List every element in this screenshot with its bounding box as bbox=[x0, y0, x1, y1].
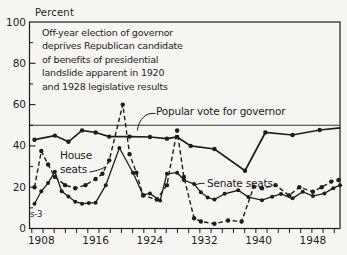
data-point bbox=[290, 133, 294, 137]
data-point bbox=[320, 185, 324, 189]
y-tick-label: 20 bbox=[13, 181, 26, 193]
data-point bbox=[63, 183, 67, 187]
data-point bbox=[80, 202, 84, 206]
senate-seats-leader-line bbox=[195, 183, 205, 185]
data-point bbox=[83, 183, 87, 187]
y-tick-label: 60 bbox=[13, 98, 26, 110]
data-point bbox=[273, 183, 277, 187]
scanned-statistics-figure: 020406080100190819161924193219401948 Per… bbox=[0, 0, 347, 255]
data-point bbox=[206, 196, 210, 200]
house-seats-label-line1: House bbox=[60, 149, 92, 163]
annotation-line: landslide apparent in 1920 bbox=[42, 66, 183, 79]
data-point bbox=[33, 202, 37, 206]
data-point bbox=[148, 191, 152, 195]
source-mark: s-3 bbox=[30, 209, 42, 219]
data-point bbox=[329, 179, 333, 183]
data-point bbox=[175, 171, 179, 175]
data-point bbox=[301, 190, 305, 194]
data-point bbox=[39, 189, 43, 193]
data-point bbox=[66, 140, 70, 144]
data-point bbox=[121, 102, 125, 106]
data-point bbox=[46, 162, 50, 166]
data-point bbox=[297, 185, 301, 189]
data-point bbox=[158, 199, 162, 203]
data-point bbox=[291, 196, 295, 200]
data-point bbox=[212, 222, 216, 226]
data-point bbox=[175, 128, 179, 132]
data-point bbox=[127, 152, 131, 156]
data-point bbox=[199, 219, 203, 223]
y-tick-label: 100 bbox=[6, 16, 26, 28]
annotation-line: of benefits of presidential bbox=[42, 53, 183, 66]
data-point bbox=[243, 168, 247, 172]
data-point bbox=[322, 191, 326, 195]
data-point bbox=[141, 193, 145, 197]
data-point bbox=[107, 134, 111, 138]
y-tick-label: 80 bbox=[13, 57, 26, 69]
data-point bbox=[165, 183, 169, 187]
data-point bbox=[317, 128, 321, 132]
data-point bbox=[212, 147, 216, 151]
senate-seats-series-label: Senate seats bbox=[207, 177, 273, 189]
y-axis-title: Percent bbox=[35, 7, 74, 18]
data-point bbox=[165, 136, 169, 140]
data-point bbox=[32, 185, 36, 189]
data-point bbox=[226, 218, 230, 222]
house-seats-series-label: House seats bbox=[60, 149, 92, 176]
data-point bbox=[80, 128, 84, 132]
x-tick-label: 1932 bbox=[191, 234, 218, 246]
data-point bbox=[331, 186, 335, 190]
data-point bbox=[93, 130, 97, 134]
data-point bbox=[73, 186, 77, 190]
annotation-block: Off-year election of governor deprives R… bbox=[42, 26, 183, 93]
data-point bbox=[46, 181, 50, 185]
data-point bbox=[66, 194, 70, 198]
data-point bbox=[188, 144, 192, 148]
data-point bbox=[337, 178, 341, 182]
y-tick-label: 40 bbox=[13, 139, 26, 151]
data-point bbox=[199, 190, 203, 194]
x-tick-label: 1948 bbox=[300, 234, 327, 246]
data-point bbox=[117, 146, 121, 150]
x-tick-label: 1916 bbox=[82, 234, 109, 246]
x-tick-label: 1924 bbox=[137, 234, 164, 246]
x-tick-label: 1908 bbox=[28, 234, 55, 246]
data-point bbox=[212, 198, 216, 202]
data-point bbox=[93, 177, 97, 181]
data-point bbox=[73, 200, 77, 204]
y-tick-label: 0 bbox=[19, 222, 26, 234]
annotation-line: deprives Republican candidate bbox=[42, 39, 183, 52]
annotation-line: and 1928 legislative results bbox=[42, 80, 183, 93]
data-point bbox=[53, 133, 57, 137]
data-point bbox=[131, 171, 135, 175]
data-point bbox=[165, 172, 169, 176]
data-point bbox=[338, 183, 342, 187]
data-point bbox=[107, 158, 111, 162]
data-point bbox=[192, 216, 196, 220]
popular-vote-series-label: Popular vote for governor bbox=[156, 105, 285, 117]
data-point bbox=[104, 183, 108, 187]
data-point bbox=[279, 192, 283, 196]
data-point bbox=[39, 149, 43, 153]
data-point bbox=[311, 190, 315, 194]
data-point bbox=[246, 195, 250, 199]
data-point bbox=[32, 138, 36, 142]
data-point bbox=[192, 182, 196, 186]
popular-vote-leader-line bbox=[137, 113, 155, 130]
data-point bbox=[53, 170, 57, 174]
data-point bbox=[263, 130, 267, 134]
data-point bbox=[100, 172, 104, 176]
data-point bbox=[94, 201, 98, 205]
data-point bbox=[223, 192, 227, 196]
house-seats-label-line2: seats bbox=[60, 163, 92, 177]
data-point bbox=[311, 194, 315, 198]
annotation-line: Off-year election of governor bbox=[42, 26, 183, 39]
data-point bbox=[60, 189, 64, 193]
data-point bbox=[148, 135, 152, 139]
data-point bbox=[239, 219, 243, 223]
data-point bbox=[87, 201, 91, 205]
data-point bbox=[182, 178, 186, 182]
data-point bbox=[260, 198, 264, 202]
x-tick-label: 1940 bbox=[245, 234, 272, 246]
data-point bbox=[270, 195, 274, 199]
